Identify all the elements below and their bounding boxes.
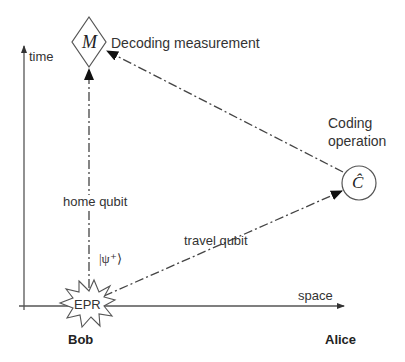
bob-label: Bob — [68, 333, 93, 346]
coding-label-line1: Coding — [328, 116, 372, 130]
epr-label: EPR — [74, 298, 101, 311]
coding-symbol: Ĉ — [352, 174, 363, 191]
classical-edge — [107, 51, 343, 172]
travel-qubit-label: travel qubit — [184, 234, 248, 247]
diagram-canvas — [0, 0, 405, 362]
coding-label-line2: operation — [328, 134, 386, 148]
decoding-measurement-label: Decoding measurement — [111, 36, 260, 50]
measurement-symbol: M — [82, 33, 97, 51]
space-axis-label: space — [298, 289, 333, 302]
home-qubit-label: home qubit — [63, 195, 127, 208]
bell-state-label: |ψ⁺⟩ — [99, 252, 122, 265]
alice-label: Alice — [325, 333, 356, 346]
time-axis-label: time — [29, 50, 54, 63]
